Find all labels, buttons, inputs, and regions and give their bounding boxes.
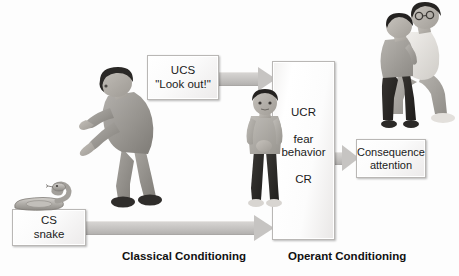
- snake-illustration: [11, 181, 79, 213]
- ucs-quote: "Look out!": [155, 78, 210, 92]
- consequence-label: Consequence: [357, 146, 425, 159]
- attention-label: attention: [370, 159, 412, 172]
- arrow-cs-to-center: [84, 215, 276, 241]
- ucr-label: UCR: [291, 106, 316, 120]
- cs-stimulus: snake: [34, 228, 65, 242]
- conditioning-diagram: UCS "Look out!" CS snake UCR fear behavi…: [0, 0, 459, 276]
- cs-box: CS snake: [12, 209, 86, 246]
- caption-operant-conditioning: Operant Conditioning: [288, 250, 406, 262]
- caption-classical-conditioning: Classical Conditioning: [122, 250, 246, 262]
- frightened-child-illustration: [240, 88, 290, 212]
- cs-label: CS: [41, 214, 57, 228]
- cr-label: CR: [295, 173, 312, 187]
- ucs-box: UCS "Look out!": [147, 55, 219, 100]
- adult-comforting-child-illustration: [365, 2, 457, 144]
- arrow-shaft: [84, 221, 256, 235]
- ucs-label: UCS: [171, 64, 195, 78]
- arrow-head-icon: [254, 215, 274, 241]
- arrow-shaft: [216, 72, 260, 86]
- consequence-box: Consequence attention: [356, 139, 426, 178]
